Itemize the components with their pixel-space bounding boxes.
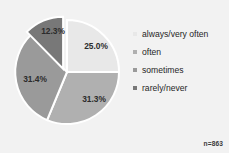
pie-label-often: 31.3% (82, 94, 106, 104)
pie-svg: 25.0% 31.3% 31.4% 12.3% (2, 4, 130, 136)
pie-label-sometimes: 31.4% (23, 74, 47, 84)
pie-label-rarely-never: 12.3% (41, 26, 65, 36)
legend-item-always-very-often[interactable]: always/very often (133, 25, 227, 43)
legend-item-often[interactable]: often (133, 43, 227, 61)
pie-chart: 25.0% 31.3% 31.4% 12.3% always/very ofte… (0, 0, 229, 153)
legend-label-rarely-never: rarely/never (142, 84, 187, 93)
pie-graphic: 25.0% 31.3% 31.4% 12.3% (2, 4, 130, 136)
legend-item-sometimes[interactable]: sometimes (133, 61, 227, 79)
legend-swatch-rarely-never (133, 86, 137, 90)
chart-legend: always/very often often sometimes rarely… (133, 25, 227, 97)
legend-label-always-very-often: always/very often (142, 30, 208, 39)
pie-label-always-very-often: 25.0% (84, 41, 108, 51)
legend-swatch-sometimes (133, 68, 137, 72)
sample-size-annotation: n=863 (204, 140, 223, 147)
legend-item-rarely-never[interactable]: rarely/never (133, 79, 227, 97)
legend-swatch-always-very-often (133, 32, 137, 36)
legend-label-sometimes: sometimes (142, 66, 184, 75)
legend-label-often: often (142, 48, 161, 57)
legend-swatch-often (133, 50, 137, 54)
